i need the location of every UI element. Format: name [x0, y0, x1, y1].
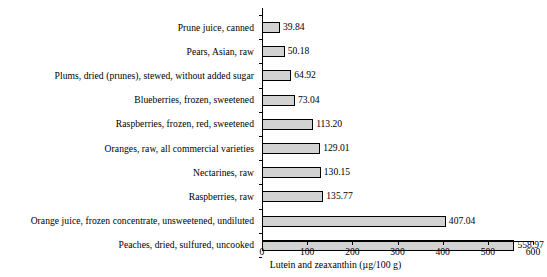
y-axis-tick	[259, 136, 262, 137]
x-axis-tick-label: 300	[390, 246, 404, 258]
category-label: Pears, Asian, raw	[187, 46, 254, 57]
bar-value-label: 113.20	[316, 118, 342, 130]
category-label: Raspberries, raw	[189, 191, 254, 202]
bar-row: 129.01	[262, 143, 533, 154]
x-axis-tick-label: 500	[481, 246, 495, 258]
bar-value-label: 39.84	[283, 21, 305, 33]
y-axis-tick	[259, 112, 262, 113]
x-axis-title-text: Lutein and zeaxanthin (µg/100 g)	[270, 259, 401, 270]
bar-row: 39.84	[262, 22, 533, 33]
bar	[262, 95, 295, 106]
category-label: Orange juice, frozen concentrate, unswee…	[31, 215, 254, 226]
x-axis-tick-label: 100	[300, 246, 314, 258]
bar	[262, 119, 313, 130]
bar	[262, 22, 280, 33]
x-axis-tick-label: 600	[526, 246, 540, 258]
x-axis-tick	[533, 241, 534, 245]
y-axis-tick	[259, 209, 262, 210]
category-label: Peaches, dried, sulfured, uncooked	[119, 239, 254, 250]
bar	[262, 70, 291, 81]
category-label: Prune juice, canned	[178, 22, 254, 33]
bar-value-label: 130.15	[324, 166, 350, 178]
x-axis-tick	[262, 241, 263, 245]
bar-value-label: 407.04	[449, 215, 475, 227]
x-axis-tick	[352, 241, 353, 245]
bar	[262, 143, 320, 154]
x-axis-tick-label: 400	[435, 246, 449, 258]
y-axis-tick	[259, 15, 262, 16]
x-axis-title: Lutein and zeaxanthin (µg/100 g)	[0, 259, 547, 270]
bar-row: 135.77	[262, 191, 533, 202]
y-axis-tick	[259, 88, 262, 89]
bar-row: 113.20	[262, 119, 533, 130]
y-axis-tick	[259, 63, 262, 64]
y-axis-tick	[259, 160, 262, 161]
category-label: Blueberries, frozen, sweetened	[134, 94, 254, 105]
bar-row: 73.04	[262, 95, 533, 106]
plot-area: 39.8450.1864.9273.04113.20129.01130.1513…	[262, 8, 533, 241]
x-axis-tick-label: 0	[260, 246, 265, 258]
category-axis-labels: Prune juice, cannedPears, Asian, rawPlum…	[0, 0, 258, 253]
bar	[262, 167, 321, 178]
bar	[262, 46, 285, 57]
x-axis-tick	[443, 241, 444, 245]
bar	[262, 191, 323, 202]
x-axis-tick	[398, 241, 399, 245]
category-label: Nectarines, raw	[193, 167, 254, 178]
bar-value-label: 73.04	[298, 94, 320, 106]
bar-row: 407.04	[262, 216, 533, 227]
bar-value-label: 64.92	[294, 69, 316, 81]
bar	[262, 216, 446, 227]
bar-value-label: 129.01	[323, 142, 349, 154]
bar-value-label: 135.77	[326, 190, 352, 202]
x-axis-tick	[488, 241, 489, 245]
category-label: Oranges, raw, all commercial varieties	[105, 143, 254, 154]
y-axis-tick	[259, 184, 262, 185]
x-axis-tick	[307, 241, 308, 245]
bar-row: 50.18	[262, 46, 533, 57]
bar-row: 64.92	[262, 70, 533, 81]
bar-value-label: 50.18	[288, 45, 310, 57]
bar-row: 130.15	[262, 167, 533, 178]
y-axis-tick	[259, 39, 262, 40]
x-axis-tick-label: 200	[345, 246, 359, 258]
y-axis-tick	[259, 233, 262, 234]
category-label: Raspberries, frozen, red, sweetened	[116, 118, 254, 129]
chart-figure: Prune juice, cannedPears, Asian, rawPlum…	[0, 0, 547, 277]
category-label: Plums, dried (prunes), stewed, without a…	[55, 70, 254, 81]
